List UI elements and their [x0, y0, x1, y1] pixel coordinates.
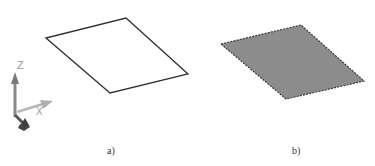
caption-a: a)	[107, 146, 115, 156]
ucs-axis-icon	[11, 72, 53, 131]
caption-b: b)	[292, 146, 300, 156]
figure-canvas	[0, 0, 375, 166]
figure: Z X a) b)	[0, 0, 375, 166]
panel-b	[221, 25, 364, 99]
panel-a	[46, 18, 188, 93]
z-axis-label: Z	[17, 60, 24, 71]
z-axis-arrowhead	[11, 72, 19, 84]
surface-plane	[221, 25, 364, 99]
wireframe-plane	[46, 18, 188, 93]
x-axis-label: X	[36, 106, 43, 117]
